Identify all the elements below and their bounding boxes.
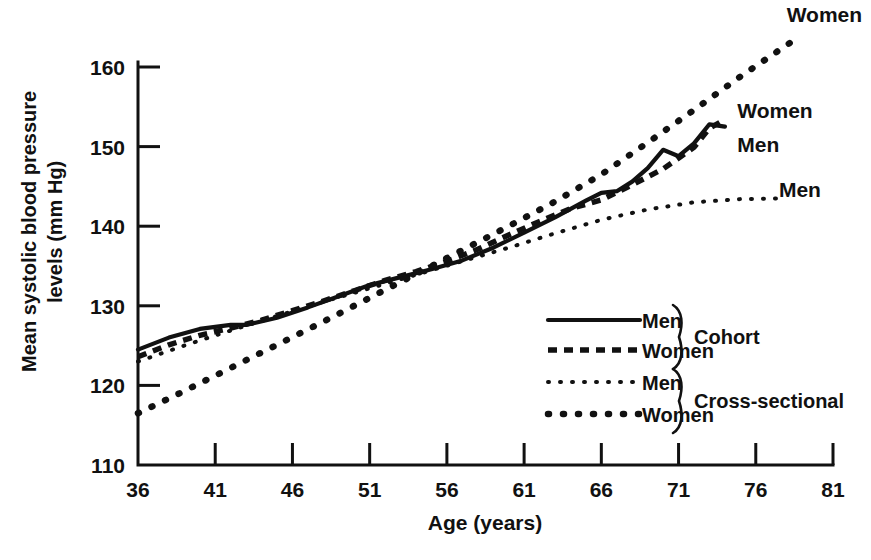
y-axis-title: Mean systolic blood pressure levels (mm … xyxy=(18,91,66,372)
y-axis-title-line1: Mean systolic blood pressure xyxy=(18,91,40,372)
series-annotations: WomenWomenMenMen xyxy=(737,3,862,201)
y-tick-label-120: 120 xyxy=(90,374,125,397)
annot-cross-men: Men xyxy=(779,178,821,201)
x-tick-label-66: 66 xyxy=(590,478,613,501)
x-tick-label-36: 36 xyxy=(126,478,149,501)
legend-group-cross-sectional: Cross-sectional xyxy=(694,390,844,412)
y-tick-label-140: 140 xyxy=(90,215,125,238)
x-tick-label-76: 76 xyxy=(744,478,767,501)
annot-cross-women: Women xyxy=(787,3,862,26)
y-tick-label-110: 110 xyxy=(91,454,125,477)
y-tick-label-150: 150 xyxy=(90,136,125,159)
series-cohort-men xyxy=(138,124,725,349)
legend-label-0: Men xyxy=(642,310,682,332)
x-tick-label-51: 51 xyxy=(358,478,382,501)
x-tick-label-81: 81 xyxy=(821,478,845,501)
blood-pressure-line-chart: Mean systolic blood pressure levels (mm … xyxy=(0,0,871,560)
x-axis-title: Age (years) xyxy=(428,511,542,534)
chart-legend: MenWomenMenWomen Cohort Cross-sectional xyxy=(548,305,844,433)
series-cross-sectional-men xyxy=(138,198,787,361)
legend-rows: MenWomenMenWomen xyxy=(548,310,714,426)
x-tick-label-46: 46 xyxy=(281,478,304,501)
x-tick-label-61: 61 xyxy=(512,478,536,501)
y-axis-title-line2: levels (mm Hg) xyxy=(44,161,66,303)
x-tick-label-71: 71 xyxy=(667,478,691,501)
x-tick-label-41: 41 xyxy=(204,478,228,501)
x-tick-label-56: 56 xyxy=(435,478,458,501)
x-axis-ticks: 36414651566166717681 xyxy=(126,443,845,501)
chart-figure: Mean systolic blood pressure levels (mm … xyxy=(0,0,871,560)
annot-cohort-women: Women xyxy=(737,99,812,122)
y-tick-label-160: 160 xyxy=(90,56,125,79)
legend-group-cohort: Cohort xyxy=(694,326,760,348)
annot-cohort-men: Men xyxy=(737,133,779,156)
y-axis-ticks: 110120130140150160 xyxy=(90,56,160,477)
legend-label-2: Men xyxy=(642,372,682,394)
y-tick-label-130: 130 xyxy=(90,295,125,318)
